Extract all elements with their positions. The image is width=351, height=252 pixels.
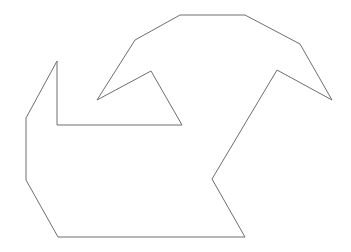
drawing-canvas (0, 0, 351, 252)
shape-svg-canvas (0, 0, 351, 252)
polygon-outline-path (26, 15, 332, 237)
